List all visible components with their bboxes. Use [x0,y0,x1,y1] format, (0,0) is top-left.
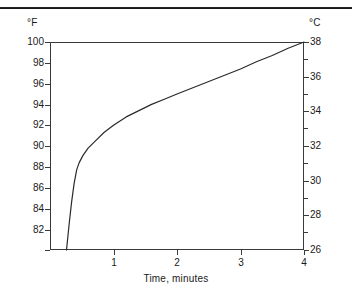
left-axis-tick [45,84,50,85]
right-axis-tick-label: 34 [310,106,321,116]
x-axis-tick-label: 1 [104,258,124,268]
left-axis-tick [45,125,50,126]
left-axis-tick-label: 96 [33,79,44,89]
left-axis-tick [45,146,50,147]
left-axis-tick-label: 92 [33,120,44,130]
x-axis-tick [114,250,115,255]
right-axis-tick-label: 32 [310,141,321,151]
right-axis-tick [304,77,309,78]
left-axis-tick [45,209,50,210]
right-axis-minor-tick [304,94,308,95]
left-axis-tick-label: 88 [33,162,44,172]
left-axis-tick-label: 100 [27,37,44,47]
right-axis-tick [304,111,309,112]
left-axis-tick [45,188,50,189]
right-axis-minor-tick [304,163,308,164]
left-axis-tick-label: 86 [33,183,44,193]
right-axis-tick [304,215,309,216]
left-axis-tick-label: 82 [33,225,44,235]
right-axis-minor-tick [304,128,308,129]
left-axis-tick-label: 98 [33,58,44,68]
top-rule-divider [0,7,352,9]
left-axis-unit-label: °F [27,17,38,28]
temperature-curve [67,42,304,250]
right-axis-minor-tick [304,232,308,233]
x-axis-tick-label: 4 [294,258,314,268]
right-axis-tick-label: 28 [310,210,321,220]
left-axis-tick [45,230,50,231]
right-axis-minor-tick [304,59,308,60]
right-axis-tick [304,146,309,147]
right-axis-unit-label: °C [309,17,321,28]
left-axis-tick-label: 94 [33,100,44,110]
left-axis-tick [45,250,50,251]
left-axis-tick [45,105,50,106]
left-axis-tick [45,63,50,64]
right-axis-tick [304,42,309,43]
x-axis-tick [304,250,305,255]
x-axis-tick-label: 2 [167,258,187,268]
left-axis-tick-label: 90 [33,141,44,151]
x-axis-tick-label: 3 [231,258,251,268]
left-axis-tick [45,167,50,168]
right-axis-minor-tick [304,198,308,199]
right-axis-tick-label: 38 [310,37,321,47]
right-axis-tick-label: 36 [310,72,321,82]
x-axis-title: Time, minutes [0,273,352,284]
chart-plot-area [50,42,304,250]
x-axis-tick [177,250,178,255]
left-axis-tick-label: 84 [33,204,44,214]
x-axis-tick [241,250,242,255]
figure-container: °F °C 1009896949290888684823836343230282… [0,0,352,296]
left-axis-tick [45,42,50,43]
right-axis-tick-label: 30 [310,176,321,186]
right-axis-tick [304,181,309,182]
right-axis-tick-label: 26 [310,245,321,255]
